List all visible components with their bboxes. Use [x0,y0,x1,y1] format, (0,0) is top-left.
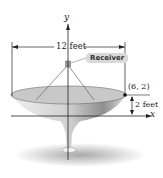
dish-rim [11,86,126,104]
receiver-label: Receiver [86,53,128,63]
width-arrow-left [12,45,18,49]
y-axis-label: y [64,12,69,22]
depth-label: 2 feet [135,100,158,109]
depth-arrow-top [130,96,134,101]
width-arrow-right [119,45,125,49]
y-axis-arrow [66,24,70,30]
x-axis-label: x [150,109,155,119]
point-label: (6, 2) [128,82,150,91]
ground-shadow [14,143,146,167]
width-label: 12 feet [56,41,86,51]
stand-base [62,148,76,153]
depth-arrow-bottom [130,110,134,115]
receiver-pointer [71,58,86,63]
